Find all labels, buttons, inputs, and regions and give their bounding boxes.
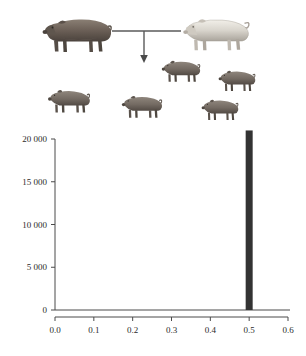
y-tick-label: 0 bbox=[43, 305, 48, 315]
y-tick-label: 5 000 bbox=[27, 262, 48, 272]
light-pig-icon bbox=[178, 12, 254, 54]
x-tick-label: 0.1 bbox=[88, 325, 99, 335]
y-tick-label: 10 000 bbox=[22, 220, 47, 230]
piglet-4 bbox=[119, 92, 165, 121]
figure-root: 05 00010 00015 00020 0000.00.10.20.30.40… bbox=[0, 0, 306, 356]
piglet-1 bbox=[159, 57, 203, 85]
histogram-bar bbox=[246, 130, 253, 310]
parent-pig-light bbox=[178, 12, 254, 54]
piglet-2 bbox=[216, 67, 258, 94]
piglet-icon bbox=[216, 67, 258, 94]
x-tick-label: 0.6 bbox=[282, 325, 294, 335]
piglet-icon bbox=[119, 92, 165, 121]
down-arrow-icon bbox=[140, 55, 148, 63]
dark-pig-icon bbox=[36, 14, 116, 58]
piglet-5 bbox=[199, 96, 241, 123]
chart-svg: 05 00010 00015 00020 0000.00.10.20.30.40… bbox=[0, 126, 306, 356]
piglet-icon bbox=[159, 57, 203, 85]
parent-pig-dark bbox=[36, 14, 116, 58]
y-tick-label: 15 000 bbox=[22, 177, 47, 187]
y-tick-label: 20 000 bbox=[22, 134, 47, 144]
piglet-3 bbox=[45, 86, 93, 116]
x-tick-label: 0.5 bbox=[244, 325, 256, 335]
x-tick-label: 0.2 bbox=[127, 325, 138, 335]
x-tick-label: 0.3 bbox=[166, 325, 178, 335]
piglet-icon bbox=[45, 86, 93, 116]
x-tick-label: 0.4 bbox=[205, 325, 217, 335]
x-tick-label: 0.0 bbox=[49, 325, 61, 335]
pedigree-panel bbox=[0, 0, 306, 126]
histogram-panel: 05 00010 00015 00020 0000.00.10.20.30.40… bbox=[0, 126, 306, 356]
piglet-icon bbox=[199, 96, 241, 123]
